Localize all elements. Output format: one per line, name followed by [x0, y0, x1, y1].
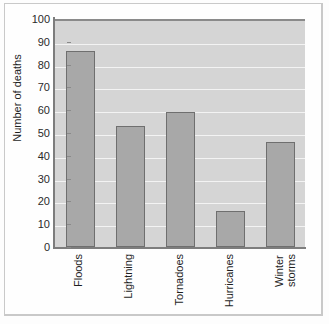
- x-axis-category-label: Floods: [72, 254, 84, 287]
- y-axis-tick-mark: [67, 133, 71, 134]
- y-axis-tick-mark: [67, 156, 71, 157]
- y-axis-tick-mark: [67, 42, 71, 43]
- y-axis-tick-mark: [67, 110, 71, 111]
- chart-figure: 0102030405060708090100 Number of deaths …: [0, 0, 329, 324]
- y-axis-tick-label: 90: [20, 36, 50, 47]
- y-axis-tick-mark: [67, 19, 71, 20]
- bar: [216, 211, 245, 247]
- y-axis-tick-label: 30: [20, 173, 50, 184]
- plot-area: [54, 19, 305, 247]
- y-axis-tick-mark: [67, 65, 71, 66]
- y-axis-line: [53, 17, 55, 249]
- bar: [116, 126, 145, 247]
- y-axis-title: Number of deaths: [11, 33, 23, 163]
- y-axis-tick-mark: [67, 247, 71, 248]
- y-axis-tick-label: 20: [20, 196, 50, 207]
- y-axis-tick-label: 10: [20, 219, 50, 230]
- x-axis-line: [53, 247, 306, 249]
- y-axis-tick-label: 60: [20, 105, 50, 116]
- bar: [166, 112, 195, 247]
- y-axis-tick-mark: [67, 201, 71, 202]
- y-axis-tick-label: 0: [20, 242, 50, 253]
- y-axis-tick-mark: [67, 179, 71, 180]
- y-axis-tick-label: 50: [20, 128, 50, 139]
- bars-layer: [55, 21, 305, 247]
- y-axis-tick-label: 40: [20, 150, 50, 161]
- y-axis-tick-label: 80: [20, 59, 50, 70]
- y-axis-tick-label: 70: [20, 82, 50, 93]
- bar: [66, 51, 95, 247]
- x-axis-category-label: Hurricanes: [223, 254, 235, 307]
- y-axis-tick-mark: [67, 87, 71, 88]
- bar: [266, 142, 295, 247]
- x-axis-category-label: Winter storms: [273, 254, 298, 287]
- x-axis-category-label: Lightning: [122, 254, 134, 299]
- y-axis-tick-label: 100: [20, 14, 50, 25]
- x-axis-category-label: Tornadoes: [173, 254, 185, 305]
- y-axis-tick-mark: [67, 224, 71, 225]
